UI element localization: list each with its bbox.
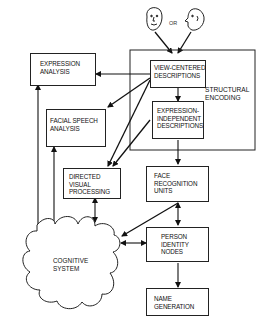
structural-encoding-label: STRUCTURAL ENCODING xyxy=(205,86,249,102)
view-centered-descriptions-box: VIEW-CENTERED DESCRIPTIONS xyxy=(150,60,206,88)
face-recognition-units-box: FACE RECOGNITION UNITS xyxy=(146,166,209,202)
facial-speech-analysis-box: FACIAL SPEECH ANALYSIS xyxy=(46,109,106,147)
front-face-icon xyxy=(147,8,162,31)
name-generation-box: NAME GENERATION xyxy=(146,288,209,316)
expression-independent-descriptions-box: EXPRESSION- INDEPENDENT DESCRIPTIONS xyxy=(152,101,204,139)
expression-analysis-box: EXPRESSION ANALYSIS xyxy=(30,53,96,86)
person-identity-nodes-box: PERSON IDENTITY NODES xyxy=(146,227,209,262)
cognitive-system-label: COGNITIVE SYSTEM xyxy=(53,257,88,273)
or-label: OR xyxy=(169,20,177,26)
diagram-connectors: OR xyxy=(0,0,269,334)
profile-face-icon xyxy=(185,9,204,30)
directed-visual-processing-box: DIRECTED VISUAL PROCESSING xyxy=(63,168,121,199)
